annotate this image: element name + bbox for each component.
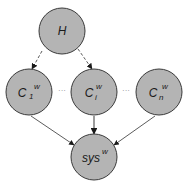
- edge-h-to-ci: [78, 49, 92, 69]
- svg-text:i: i: [95, 93, 97, 102]
- node-c1w-sub: 1: [29, 92, 33, 101]
- svg-text:C: C: [149, 86, 158, 100]
- node-h-label: H: [58, 24, 67, 38]
- edge-cn-to-sys: [114, 116, 155, 145]
- ellipsis-ci-cn: ···: [122, 86, 130, 95]
- node-ciw: C i w: [71, 69, 117, 115]
- edge-c1-to-sys: [31, 116, 74, 145]
- node-sysw-base: sys: [82, 151, 100, 165]
- node-cnw-sub: n: [159, 93, 164, 102]
- node-cnw: C n w: [136, 69, 182, 115]
- node-c1w: C 1 w: [6, 69, 52, 115]
- svg-text:sys: sys: [82, 151, 100, 165]
- edge-h-to-c1: [32, 51, 42, 69]
- svg-text:H: H: [58, 24, 67, 38]
- svg-text:n: n: [159, 93, 164, 102]
- diagram-canvas: ··· ··· H C 1 w C i w: [0, 0, 189, 190]
- node-ciw-base: C: [85, 86, 94, 100]
- node-cnw-base: C: [149, 86, 158, 100]
- node-ciw-sub: i: [95, 93, 97, 102]
- svg-text:1: 1: [29, 92, 33, 101]
- ellipsis-c1-ci: ···: [58, 86, 66, 95]
- svg-text:C: C: [18, 86, 27, 100]
- node-h: H: [39, 8, 85, 54]
- node-sysw: sys w: [71, 134, 117, 180]
- node-c1w-base: C: [18, 86, 27, 100]
- svg-text:C: C: [85, 86, 94, 100]
